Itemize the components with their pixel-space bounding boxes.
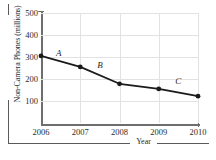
y-tick-label: 500 [25, 8, 38, 18]
x-axis-line [41, 124, 200, 126]
frame-bottom-left [8, 143, 130, 144]
plot-area: 100200300400500 20062007200820092010 ABC [41, 13, 198, 123]
x-tick-label: 2007 [72, 127, 89, 137]
x-tick-label: 2008 [111, 127, 128, 137]
data-point-marker [156, 87, 161, 92]
y-tick-label: 200 [25, 74, 38, 84]
y-axis-title: Non-Camera Phones (millions) [13, 7, 22, 103]
chart-figure: Non-Camera Phones (millions) Year 100200… [0, 0, 216, 160]
x-tick-label: 2009 [150, 127, 167, 137]
frame-left-rail [8, 100, 9, 144]
frame-bottom-right [157, 143, 209, 144]
x-axis-title: Year [130, 137, 157, 146]
x-tick-label: 2010 [190, 127, 207, 137]
y-tick-label: 300 [25, 52, 38, 62]
data-point-marker [196, 94, 201, 99]
y-tick-label: 100 [25, 96, 38, 106]
segment-label-c: C [175, 76, 181, 86]
frame-left-stub [8, 4, 9, 15]
segment-label-a: A [56, 48, 62, 58]
gridline-vertical [198, 13, 199, 123]
data-point-marker [39, 54, 44, 59]
segment-label-b: B [97, 60, 103, 70]
y-tick-label: 400 [25, 30, 38, 40]
data-point-marker [117, 81, 122, 86]
data-series-line [41, 13, 198, 123]
data-point-marker [78, 65, 83, 70]
x-tick-label: 2006 [33, 127, 50, 137]
